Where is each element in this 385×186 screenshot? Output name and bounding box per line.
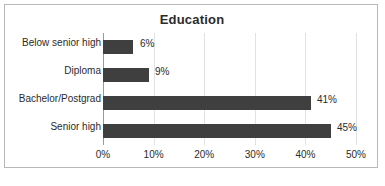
value-axis-labels: 0% 10% 20% 30% 40% 50% bbox=[103, 149, 356, 165]
bar-row: 45% bbox=[103, 117, 356, 145]
tick-label: 30% bbox=[245, 149, 265, 160]
bar bbox=[103, 68, 149, 82]
chart-title: Education bbox=[5, 12, 379, 27]
category-label: Senior high bbox=[5, 121, 101, 132]
category-label: Below senior high bbox=[5, 37, 101, 48]
tick-label: 20% bbox=[194, 149, 214, 160]
bar bbox=[103, 124, 331, 138]
tick-label: 40% bbox=[295, 149, 315, 160]
plot-area: 6% 9% 41% 45% bbox=[103, 33, 356, 145]
chart-container: Education Below senior high Diploma Bach… bbox=[4, 4, 378, 168]
bar-value-label: 45% bbox=[337, 122, 357, 133]
category-label: Diploma bbox=[5, 65, 101, 76]
tick-label: 50% bbox=[346, 149, 366, 160]
bar-row: 41% bbox=[103, 89, 356, 117]
bar-value-label: 9% bbox=[155, 66, 169, 77]
bar-row: 6% bbox=[103, 33, 356, 61]
category-label: Bachelor/Postgrad bbox=[5, 93, 101, 104]
tick-label: 10% bbox=[144, 149, 164, 160]
bar-value-label: 41% bbox=[317, 94, 337, 105]
category-axis-labels: Below senior high Diploma Bachelor/Postg… bbox=[5, 33, 101, 145]
bar-value-label: 6% bbox=[140, 38, 154, 49]
bar bbox=[103, 96, 311, 110]
bar bbox=[103, 40, 133, 54]
tick-label: 0% bbox=[96, 149, 110, 160]
bar-row: 9% bbox=[103, 61, 356, 89]
